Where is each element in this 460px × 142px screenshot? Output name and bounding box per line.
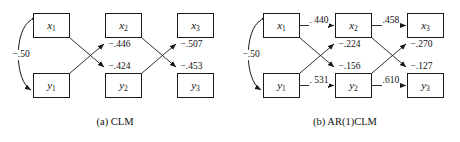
panel-clm: x1 x2 x3 y1 y2 y3 −.50 bbox=[0, 0, 230, 142]
node-y2: y2 bbox=[335, 73, 372, 98]
node-x3: x3 bbox=[177, 13, 214, 38]
panel-ar1clm-caption: (b) AR(1)CLM bbox=[230, 116, 460, 128]
arrow-x1-to-y2 bbox=[70, 38, 104, 67]
panel-clm-caption: (a) CLM bbox=[0, 116, 230, 128]
label-y2-to-y3: .610 bbox=[382, 76, 400, 86]
node-x2-label: x2 bbox=[119, 20, 128, 31]
node-y2-label: y2 bbox=[349, 80, 358, 91]
node-x3: x3 bbox=[407, 13, 444, 38]
node-y3-label: y3 bbox=[421, 80, 430, 91]
node-y1: y1 bbox=[263, 73, 300, 98]
node-x2: x2 bbox=[105, 13, 142, 38]
label-y1-to-x2: −.446 bbox=[108, 40, 131, 50]
node-x1: x1 bbox=[33, 13, 70, 38]
label-covariance-x1-y1: −.50 bbox=[12, 50, 30, 60]
node-y3-label: y3 bbox=[191, 80, 200, 91]
node-x1-label: x1 bbox=[277, 20, 286, 31]
node-x2: x2 bbox=[335, 13, 372, 38]
node-y3: y3 bbox=[407, 73, 444, 98]
arrow-x2-to-y3 bbox=[372, 38, 406, 67]
arrow-x2-to-y3 bbox=[142, 38, 176, 67]
label-y1-to-y2: . 531 bbox=[309, 76, 329, 86]
node-y1-label: y1 bbox=[47, 80, 56, 91]
arrow-y2-to-x3 bbox=[372, 44, 406, 73]
node-y1: y1 bbox=[33, 73, 70, 98]
label-x2-to-y3: −.453 bbox=[180, 62, 203, 72]
node-y2-label: y2 bbox=[119, 80, 128, 91]
node-x1: x1 bbox=[263, 13, 300, 38]
arrow-y1-to-x2 bbox=[300, 44, 334, 73]
label-y1-to-x2: −.224 bbox=[338, 40, 361, 50]
panel-ar1clm: x1 x2 x3 y1 y2 y3 −.50 bbox=[230, 0, 460, 142]
node-x2-label: x2 bbox=[349, 20, 358, 31]
figure-cross-lagged-models: x1 x2 x3 y1 y2 y3 −.50 bbox=[0, 0, 460, 142]
node-y2: y2 bbox=[105, 73, 142, 98]
label-y2-to-x3: −.270 bbox=[410, 40, 433, 50]
label-y2-to-x3: −.507 bbox=[180, 40, 203, 50]
node-x3-label: x3 bbox=[191, 20, 200, 31]
label-x1-to-x2: . 440 bbox=[309, 16, 329, 26]
node-x3-label: x3 bbox=[421, 20, 430, 31]
arrow-y2-to-x3 bbox=[142, 44, 176, 73]
arrow-y1-to-x2 bbox=[70, 44, 104, 73]
node-x1-label: x1 bbox=[47, 20, 56, 31]
arrow-x1-to-y2 bbox=[300, 38, 334, 67]
node-y3: y3 bbox=[177, 73, 214, 98]
node-y1-label: y1 bbox=[277, 80, 286, 91]
label-x1-to-y2: −.156 bbox=[338, 62, 361, 72]
label-covariance-x1-y1: −.50 bbox=[242, 50, 260, 60]
label-x2-to-x3: .458 bbox=[382, 16, 400, 26]
label-x2-to-y3: −.127 bbox=[410, 62, 433, 72]
label-x1-to-y2: −.424 bbox=[108, 62, 131, 72]
